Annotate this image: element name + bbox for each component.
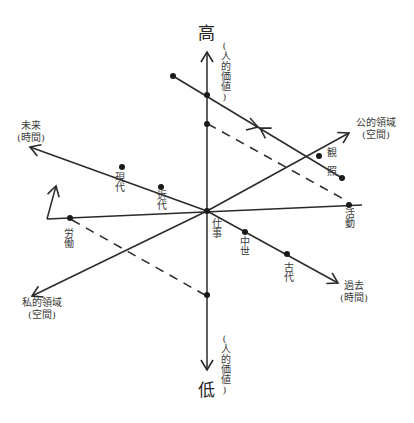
point-value-high [204, 92, 210, 98]
label-past: 過去 [331, 280, 377, 291]
point-center [204, 208, 210, 214]
labor-up-arrow [47, 186, 56, 219]
point-medieval [242, 229, 248, 235]
time-axis-past [207, 211, 338, 283]
label-medieval: 中世 [238, 236, 249, 256]
label-ancient: 古代 [282, 262, 293, 282]
label-labor: 労働 [62, 228, 73, 248]
label-low: 低 [198, 381, 215, 399]
label-private-sub: (空間) [12, 309, 72, 320]
point-contemplation-sho [339, 175, 345, 181]
point-labor [67, 215, 73, 221]
dashed-line-lower [72, 220, 205, 295]
point-modern [119, 164, 125, 170]
label-future-sub: (時間) [8, 132, 54, 143]
label-future: 未来 [8, 120, 54, 131]
label-human-value-top: (人的価値) [219, 40, 230, 102]
label-public-sub: (空間) [346, 129, 406, 140]
label-modern: 現代 [113, 172, 124, 192]
label-public: 公的領域 [346, 117, 406, 128]
label-action: 活動 [343, 208, 354, 228]
label-early-modern: 近代 [155, 190, 166, 210]
label-contemplation-sho: 照 [327, 166, 337, 177]
space-axis-private [32, 211, 207, 296]
label-high: 高 [198, 24, 215, 42]
point-contemplation-start [170, 73, 176, 79]
point-value-mid [204, 121, 210, 127]
diagram-canvas: 高 低 (人的価値) (人的価値) 未来 (時間) 過去 (時間) 現代 近代 … [0, 0, 414, 423]
point-ancient [284, 251, 290, 257]
label-work: 仕事 [210, 218, 221, 238]
dashed-line-upper [208, 124, 347, 201]
label-human-value-bottom: (人的価値) [219, 333, 230, 395]
point-contemplation-kan [316, 153, 322, 159]
point-value-low [204, 292, 210, 298]
label-past-sub: (時間) [331, 292, 377, 303]
label-private: 私的領域 [12, 297, 72, 308]
label-contemplation-kan: 観 [327, 147, 337, 158]
